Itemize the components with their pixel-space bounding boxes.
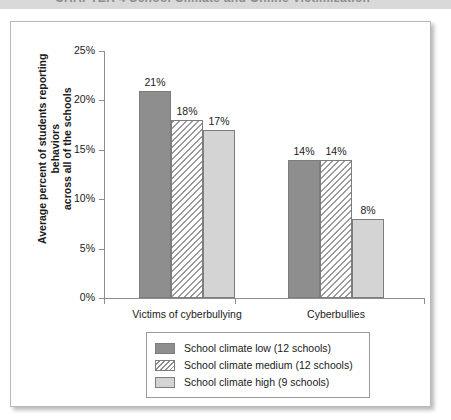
chapter-header-band: CHAPTER 4 School Climate and Online Vict… <box>0 0 451 9</box>
x-tick <box>104 298 105 304</box>
bar-medium-0 <box>171 120 203 298</box>
x-axis-line <box>104 298 425 299</box>
bar-value-label: 14% <box>288 145 320 157</box>
chapter-header-text: CHAPTER 4 School Climate and Online Vict… <box>55 0 370 5</box>
bar-medium-1 <box>320 160 352 298</box>
bar-high-0 <box>203 130 235 298</box>
legend-swatch-low <box>155 343 175 354</box>
y-axis-line <box>104 51 105 299</box>
bar-value-label: 21% <box>139 76 171 88</box>
x-tick <box>235 298 236 304</box>
legend-item-medium: School climate medium (12 schools) <box>155 357 361 373</box>
bar-value-label: 17% <box>203 115 235 127</box>
x-tick <box>424 298 425 304</box>
y-tick-label: 5% <box>35 242 95 254</box>
legend-label: School climate low (12 schools) <box>184 342 331 354</box>
bar-high-1 <box>352 219 384 298</box>
chart-legend: School climate low (12 schools)School cl… <box>146 332 370 398</box>
y-tick <box>99 150 105 151</box>
y-tick-label: 0% <box>35 291 95 303</box>
y-tick <box>99 51 105 52</box>
bar-low-1 <box>288 160 320 298</box>
y-tick <box>99 249 105 250</box>
x-category-label: Cyberbullies <box>256 308 416 320</box>
legend-swatch-high <box>155 377 175 388</box>
y-tick-label: 25% <box>35 44 95 56</box>
legend-item-high: School climate high (9 schools) <box>155 374 361 390</box>
legend-item-low: School climate low (12 schools) <box>155 340 361 356</box>
bar-value-label: 18% <box>171 105 203 117</box>
bar-value-label: 8% <box>352 204 384 216</box>
y-tick-label: 10% <box>35 192 95 204</box>
y-tick-label: 20% <box>35 93 95 105</box>
bar-value-label: 14% <box>320 145 352 157</box>
bar-low-0 <box>139 91 171 298</box>
legend-swatch-medium <box>155 360 175 371</box>
legend-label: School climate high (9 schools) <box>184 376 329 388</box>
bar-chart: Average percent of students reporting be… <box>11 22 432 408</box>
figure-panel: Average percent of students reporting be… <box>10 21 431 407</box>
y-tick-label: 15% <box>35 143 95 155</box>
legend-label: School climate medium (12 schools) <box>184 359 353 371</box>
x-category-label: Victims of cyberbullying <box>107 308 267 320</box>
y-tick <box>99 100 105 101</box>
y-tick <box>99 199 105 200</box>
